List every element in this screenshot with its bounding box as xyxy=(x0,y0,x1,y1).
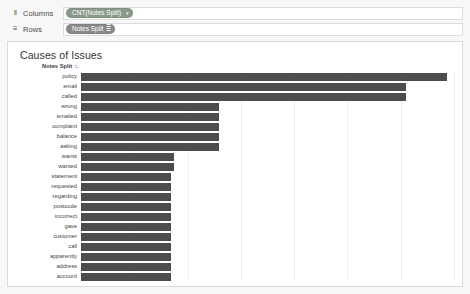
bar-row[interactable]: incorrect xyxy=(8,212,454,222)
bar[interactable] xyxy=(81,193,171,201)
bar[interactable] xyxy=(81,173,171,181)
bar-row-label[interactable]: wanted xyxy=(8,164,81,170)
bar-row[interactable]: customer xyxy=(8,232,454,242)
bar-row-label[interactable]: postcode xyxy=(8,204,81,210)
bar-row[interactable]: regarding xyxy=(8,192,454,202)
bar-chart: Notes Split↑̵ policyemailcalledwrongemai… xyxy=(8,63,462,282)
bar-cell xyxy=(81,262,454,272)
bar-row[interactable]: wrong xyxy=(8,102,454,112)
columns-shelf-track[interactable]: CNT(Notes Split) ▾ xyxy=(63,7,463,20)
bar-row-label[interactable]: email xyxy=(8,84,81,90)
columns-shelf-label: ‖ Columns xyxy=(11,9,63,18)
bar-row[interactable]: statement xyxy=(8,172,454,182)
columns-shelf-text: Columns xyxy=(23,9,53,18)
bar[interactable] xyxy=(81,153,174,161)
bar-cell xyxy=(81,72,454,82)
bar-row-label[interactable]: asking xyxy=(8,144,81,150)
bar-cell xyxy=(81,202,454,212)
axis-field-header[interactable]: Notes Split↑̵ xyxy=(8,63,81,69)
bar-row[interactable]: email xyxy=(8,82,454,92)
bar-row-label[interactable]: address xyxy=(8,264,81,270)
bar[interactable] xyxy=(81,243,171,251)
bar-row[interactable]: balance xyxy=(8,132,454,142)
bar-row[interactable]: postcode xyxy=(8,202,454,212)
bar-row[interactable]: emailed xyxy=(8,112,454,122)
plot-area: policyemailcalledwrongemailedcomplaintba… xyxy=(8,72,454,280)
bar-cell xyxy=(81,272,454,282)
bar-row-label[interactable]: balance xyxy=(8,134,81,140)
bar-row-label[interactable]: emailed xyxy=(8,114,81,120)
bar[interactable] xyxy=(81,273,171,281)
bar[interactable] xyxy=(81,143,219,151)
bar-row[interactable]: policy xyxy=(8,72,454,82)
bar[interactable] xyxy=(81,213,171,221)
bar-rows: policyemailcalledwrongemailedcomplaintba… xyxy=(8,72,454,280)
pill-cnt-notes-split[interactable]: CNT(Notes Split) ▾ xyxy=(66,8,133,18)
sort-descending-icon[interactable]: ≣ xyxy=(106,26,111,32)
pill-notes-split[interactable]: Notes Split ≣ xyxy=(66,24,115,34)
bar[interactable] xyxy=(81,253,171,261)
bar-cell xyxy=(81,82,454,92)
bar-row[interactable]: called xyxy=(8,92,454,102)
bar-cell xyxy=(81,182,454,192)
bar[interactable] xyxy=(81,183,171,191)
bar-row-label[interactable]: call xyxy=(8,244,81,250)
bar[interactable] xyxy=(81,233,171,241)
bar-row[interactable]: requested xyxy=(8,182,454,192)
bar-cell xyxy=(81,112,454,122)
bar-row[interactable]: wanted xyxy=(8,162,454,172)
bar-row-label[interactable]: gave xyxy=(8,224,81,230)
bar-cell xyxy=(81,212,454,222)
bar-cell xyxy=(81,132,454,142)
bar-row-label[interactable]: regarding xyxy=(8,194,81,200)
bar-row-label[interactable]: called xyxy=(8,94,81,100)
bar-row-label[interactable]: account xyxy=(8,274,81,280)
pill-label: Notes Split xyxy=(72,26,103,33)
bar-row[interactable]: address xyxy=(8,262,454,272)
bar[interactable] xyxy=(81,93,406,101)
bar-row-label[interactable]: statement xyxy=(8,174,81,180)
bar-row[interactable]: wants xyxy=(8,152,454,162)
viz-panel: Causes of Issues Notes Split↑̵ policyema… xyxy=(7,41,463,287)
bar-row-label[interactable]: wrong xyxy=(8,104,81,110)
tableau-worksheet: ‖ Columns CNT(Notes Split) ▾ ≡ Rows Note… xyxy=(0,0,470,294)
bar[interactable] xyxy=(81,123,219,131)
rows-shelf-track[interactable]: Notes Split ≣ xyxy=(63,23,463,36)
bar-row-label[interactable]: policy xyxy=(8,74,81,80)
sort-icon[interactable]: ↑̵ xyxy=(74,63,77,69)
rows-shelf[interactable]: ≡ Rows Notes Split ≣ xyxy=(11,22,463,36)
bar[interactable] xyxy=(81,73,447,81)
bar[interactable] xyxy=(81,223,171,231)
bar-row-label[interactable]: wants xyxy=(8,154,81,160)
bar-cell xyxy=(81,142,454,152)
bar-row[interactable]: account xyxy=(8,272,454,282)
bar[interactable] xyxy=(81,133,219,141)
bar-row[interactable]: gave xyxy=(8,222,454,232)
chevron-down-icon[interactable]: ▾ xyxy=(126,11,129,16)
columns-shelf[interactable]: ‖ Columns CNT(Notes Split) ▾ xyxy=(11,6,463,20)
bar[interactable] xyxy=(81,113,219,121)
bar-row-label[interactable]: requested xyxy=(8,184,81,190)
bar-cell xyxy=(81,172,454,182)
bar-cell xyxy=(81,102,454,112)
bar-row-label[interactable]: apparently xyxy=(8,254,81,260)
bar-cell xyxy=(81,252,454,262)
bar-row-label[interactable]: complaint xyxy=(8,124,81,130)
bar-row[interactable]: complaint xyxy=(8,122,454,132)
bar[interactable] xyxy=(81,203,171,211)
bar-cell xyxy=(81,192,454,202)
bar-row[interactable]: apparently xyxy=(8,252,454,262)
bar-cell xyxy=(81,222,454,232)
bar-cell xyxy=(81,162,454,172)
bar[interactable] xyxy=(81,263,171,271)
bar-cell xyxy=(81,92,454,102)
bar-row[interactable]: asking xyxy=(8,142,454,152)
bar-cell xyxy=(81,152,454,162)
bar[interactable] xyxy=(81,83,406,91)
page-title: Causes of Issues xyxy=(8,42,462,63)
bar[interactable] xyxy=(81,103,219,111)
bar-row-label[interactable]: incorrect xyxy=(8,214,81,220)
bar[interactable] xyxy=(81,163,174,171)
bar-row[interactable]: call xyxy=(8,242,454,252)
bar-row-label[interactable]: customer xyxy=(8,234,81,240)
